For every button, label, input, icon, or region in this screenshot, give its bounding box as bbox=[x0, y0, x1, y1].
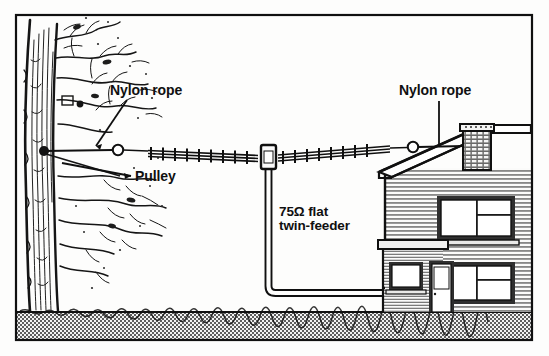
door-handle-icon[interactable] bbox=[434, 293, 436, 295]
window-upper bbox=[433, 196, 519, 245]
diagram-canvas: Nylon rope Pulley Nylon rope 75Ω flat tw… bbox=[0, 0, 549, 356]
nylon-rope-right-text: Nylon rope bbox=[399, 82, 471, 98]
antenna-installation-diagram: Nylon rope Pulley Nylon rope 75Ω flat tw… bbox=[0, 0, 549, 356]
end-insulator bbox=[408, 142, 418, 152]
centre-insulator bbox=[261, 145, 276, 169]
pulley bbox=[113, 145, 123, 155]
chimney-cap bbox=[460, 124, 494, 131]
extension-roof bbox=[378, 240, 448, 249]
window-extension bbox=[386, 262, 426, 294]
nylon-rope-left-text: Nylon rope bbox=[110, 82, 182, 98]
extension bbox=[378, 240, 454, 312]
pulley-text: Pulley bbox=[135, 168, 176, 184]
feeder-text-line2: twin-feeder bbox=[279, 218, 351, 233]
feeder-text-line1: 75Ω flat bbox=[279, 204, 329, 219]
chimney bbox=[460, 124, 494, 170]
front-door[interactable] bbox=[429, 261, 454, 312]
